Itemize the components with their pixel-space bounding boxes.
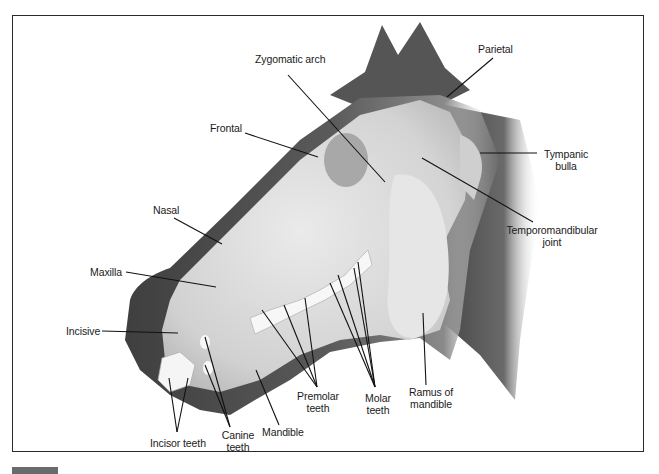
label-incisive: Incisive	[66, 325, 100, 337]
orbit	[324, 133, 368, 187]
label-molar-line1: Molar	[358, 392, 398, 404]
label-ramus-of-mandible: Ramus of mandible	[406, 386, 456, 410]
label-premolar-line2: teeth	[293, 402, 343, 414]
label-tympanic-line2: bulla	[540, 160, 592, 172]
label-premolar-teeth: Premolar teeth	[293, 390, 343, 414]
label-tympanic-line1: Tympanic	[540, 148, 592, 160]
label-canine-line1: Canine	[218, 429, 258, 441]
label-molar-teeth: Molar teeth	[358, 392, 398, 416]
label-mandible: Mandible	[262, 426, 304, 438]
label-ramus-line1: Ramus of	[406, 386, 456, 398]
label-canine-line2: teeth	[218, 441, 258, 453]
label-tmj-line2: joint	[497, 236, 607, 248]
label-parietal: Parietal	[478, 43, 513, 55]
label-molar-line2: teeth	[358, 404, 398, 416]
label-tympanic-bulla: Tympanic bulla	[540, 148, 592, 172]
label-nasal: Nasal	[153, 204, 179, 216]
label-ramus-line2: mandible	[406, 398, 456, 410]
label-maxilla: Maxilla	[90, 266, 122, 278]
label-zygomatic-arch: Zygomatic arch	[255, 53, 325, 65]
label-frontal: Frontal	[210, 122, 242, 134]
label-premolar-line1: Premolar	[293, 390, 343, 402]
label-incisor-teeth: Incisor teeth	[150, 437, 206, 449]
label-tmj-line1: Temporomandibular	[497, 224, 607, 236]
label-temporomandibular-joint: Temporomandibular joint	[497, 224, 607, 248]
label-canine-teeth: Canine teeth	[218, 429, 258, 453]
